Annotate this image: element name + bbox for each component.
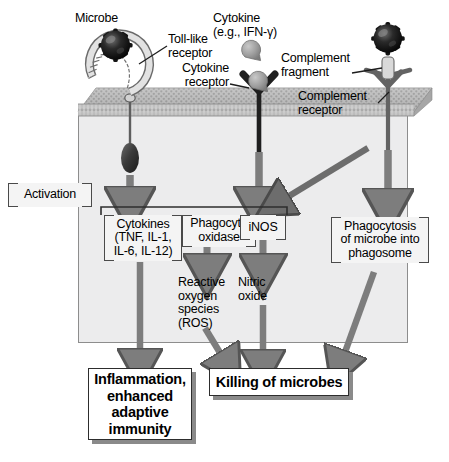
label-cytokine: Cytokine (e.g., IFN-γ) [213,12,277,39]
text-nitric-oxide: Nitric oxide [238,276,267,303]
box-killing-outcome: Killing of microbes [209,368,349,396]
cytokine-molecule-bound-icon [249,71,268,91]
box-inflammation-outcome: Inflammation, enhanced adaptive immunity [88,368,192,440]
box-inos: iNOS [240,215,286,240]
label-activation: Activation [8,183,92,207]
label-toll-like-receptor: Toll-like receptor [168,33,212,60]
leader-cytokine-receptor [230,84,249,88]
label-cytokine-receptor: Cytokine receptor [161,62,229,89]
cytokine-molecule-icon [242,40,261,60]
label-complement-receptor: Complement receptor [298,90,367,117]
leader-complement-fragment [352,68,382,73]
leader-complement-receptor [378,92,389,103]
microbe-icon [371,22,405,55]
box-phagocytosis: Phagocytosis of microbe into phagosome [331,217,429,263]
text-reactive-oxygen-species: Reactive oxygen species (ROS) [178,276,225,330]
box-cytokines: Cytokines (TNF, IL-1, IL-6, IL-12) [104,215,182,261]
label-microbe: Microbe [75,12,118,26]
label-complement-fragment: Complement fragment [281,52,350,79]
complement-fragment-icon [382,57,394,79]
macrophage-activation-diagram: Microbe Toll-like receptor Cytokine (e.g… [0,0,449,462]
microbe-icon [99,29,133,63]
